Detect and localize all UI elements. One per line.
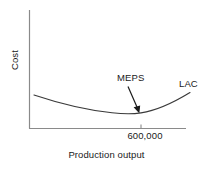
y-axis-label: Cost <box>10 50 20 70</box>
x-axis-tick-label: 600,000 <box>95 131 195 141</box>
lac-curve-label: LAC <box>179 79 198 89</box>
meps-arrow-shaft <box>128 87 137 108</box>
x-axis-label: Production output <box>0 150 213 160</box>
lac-curve <box>34 93 190 114</box>
cost-curve-figure: Cost Production output 600,000 MEPS LAC <box>0 0 213 171</box>
meps-arrow-head <box>134 106 141 114</box>
meps-annotation-label: MEPS <box>117 73 144 83</box>
